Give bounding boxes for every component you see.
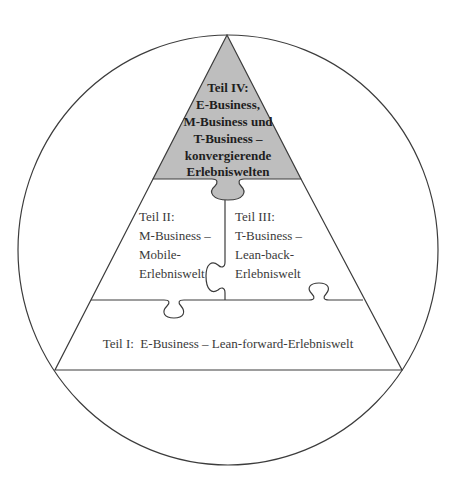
teil-iv-line-3: M-Business und bbox=[183, 114, 273, 129]
teil-iv-line-6: Erlebniswelten bbox=[186, 164, 270, 179]
teil-iii-line-4: Erlebniswelt bbox=[235, 266, 301, 281]
middle-divider bbox=[206, 200, 225, 300]
teil-iii-line-2: T-Business – bbox=[235, 228, 303, 243]
teil-iv-line-2: E-Business, bbox=[196, 97, 260, 112]
teil-iv-line-5: konvergierende bbox=[185, 148, 272, 163]
teil-ii-line-1: Teil II: bbox=[139, 209, 175, 224]
teil-ii-line-2: M-Business – bbox=[139, 228, 211, 243]
teil-iv-line-1: Teil IV: bbox=[207, 80, 248, 95]
label-teil-ii: Teil II: M-Business – Mobile- Erlebniswe… bbox=[139, 209, 211, 281]
teil-iii-line-3: Lean-back- bbox=[235, 247, 294, 262]
teil-iv-line-4: T-Business – bbox=[193, 131, 263, 146]
bottom-divider bbox=[91, 283, 363, 318]
label-teil-iii: Teil III: T-Business – Lean-back- Erlebn… bbox=[235, 209, 303, 281]
teil-ii-line-3: Mobile- bbox=[139, 247, 181, 262]
teil-iii-line-1: Teil III: bbox=[235, 209, 275, 224]
pyramid-puzzle-diagram: Teil IV: E-Business, M-Business und T-Bu… bbox=[0, 0, 459, 492]
label-teil-i: Teil I: E-Business – Lean-forward-Erlebn… bbox=[103, 336, 354, 351]
teil-ii-line-4: Erlebniswelt bbox=[139, 266, 205, 281]
